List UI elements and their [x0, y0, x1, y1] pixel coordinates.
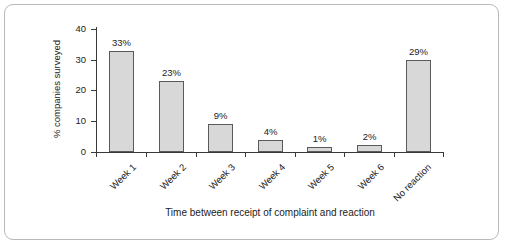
y-tick-label-30: 30 [66, 55, 86, 65]
bar-no-reaction[interactable] [406, 60, 431, 152]
x-tick-3 [245, 153, 246, 157]
bar-week-6[interactable] [357, 145, 382, 152]
y-tick-label-40-wrap: 40 [64, 24, 86, 34]
bar-week-4[interactable] [258, 140, 283, 152]
bar-chart: % companies surveyed Time between receip… [0, 0, 505, 246]
y-tick-10 [91, 121, 97, 122]
y-tick-label-20: 20 [66, 85, 86, 95]
bar-week-5[interactable] [307, 147, 332, 152]
y-tick-label-0-wrap: 0 [64, 147, 86, 157]
x-axis-line [96, 152, 444, 153]
bar-value-week-5: 1% [299, 134, 340, 144]
y-tick-label-40: 40 [66, 24, 86, 34]
bar-value-week-2: 23% [151, 68, 192, 78]
y-tick-label-0: 0 [66, 147, 86, 157]
y-tick-30 [91, 60, 97, 61]
y-tick-20 [91, 90, 97, 91]
y-tick-40 [91, 29, 97, 30]
bar-week-1[interactable] [109, 51, 134, 152]
bar-week-3[interactable] [208, 124, 233, 152]
y-tick-label-10-wrap: 10 [64, 116, 86, 126]
x-tick-7 [443, 153, 444, 157]
x-tick-0 [96, 153, 97, 157]
x-tick-4 [295, 153, 296, 157]
bar-value-no-reaction: 29% [398, 47, 439, 57]
x-tick-1 [146, 153, 147, 157]
y-tick-label-10: 10 [66, 116, 86, 126]
x-tick-2 [196, 153, 197, 157]
y-tick-label-20-wrap: 20 [64, 85, 86, 95]
x-tick-6 [394, 153, 395, 157]
y-tick-label-30-wrap: 30 [64, 55, 86, 65]
bar-value-week-1: 33% [101, 38, 142, 48]
bar-value-week-6: 2% [349, 132, 390, 142]
y-axis-title: % companies surveyed [50, 24, 63, 154]
bar-value-week-4: 4% [250, 127, 291, 137]
bar-value-week-3: 9% [200, 111, 241, 121]
x-tick-5 [344, 153, 345, 157]
bar-week-2[interactable] [159, 81, 184, 152]
